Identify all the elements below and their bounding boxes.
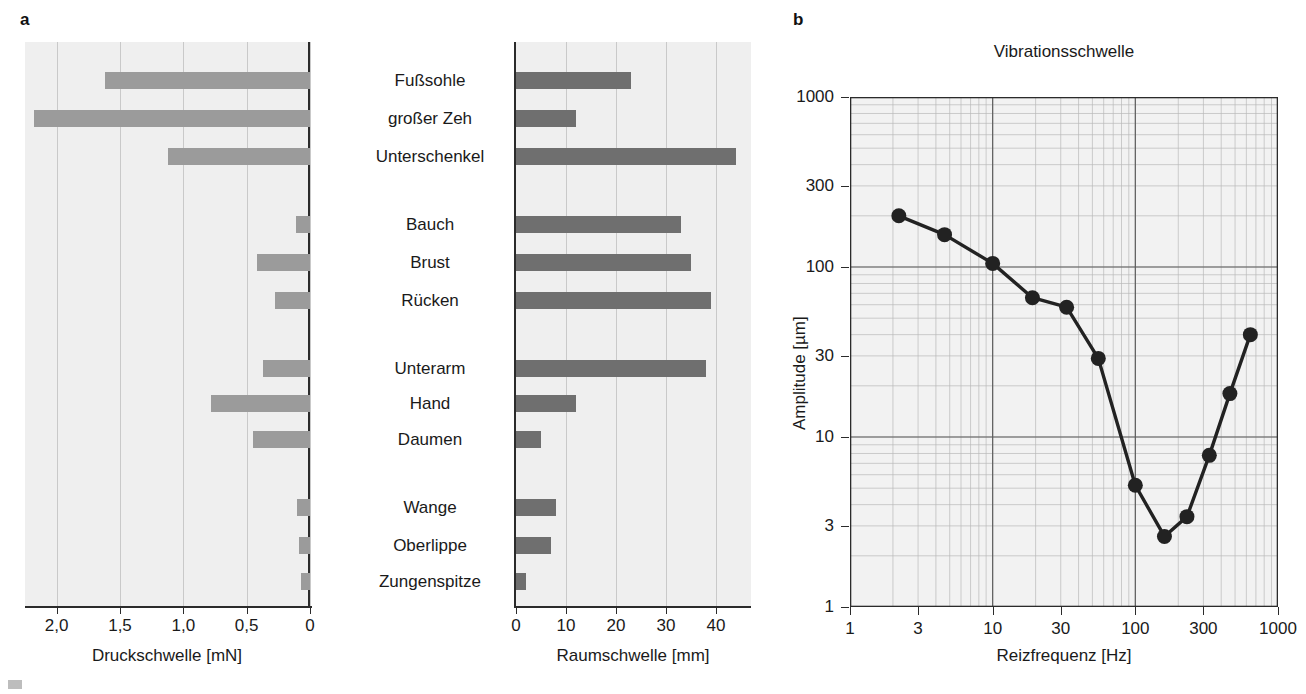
axis-tick-label: 30 bbox=[657, 616, 676, 636]
y-axis-tick bbox=[841, 526, 849, 527]
figure-root: a b 2,01,51,00,50 Druckschwelle [mN] Fuß… bbox=[0, 0, 1306, 694]
bar-row bbox=[25, 148, 310, 165]
x-axis-tick bbox=[993, 607, 994, 615]
x-axis-tick-label: 10 bbox=[983, 619, 1002, 639]
vibrationsschwelle-svg bbox=[850, 97, 1278, 607]
druckschwelle-bar bbox=[301, 573, 310, 590]
bar-row bbox=[516, 395, 751, 412]
bar-row bbox=[516, 431, 751, 448]
raumschwelle-bar bbox=[516, 431, 541, 448]
axis-tick-label: 0 bbox=[305, 616, 314, 636]
bar-row bbox=[25, 537, 310, 554]
bar-row bbox=[25, 216, 310, 233]
category-label: Brust bbox=[410, 253, 450, 273]
y-axis-tick bbox=[841, 437, 849, 438]
x-axis-tick-label: 100 bbox=[1121, 619, 1149, 639]
raumschwelle-bar bbox=[516, 537, 551, 554]
category-label: Bauch bbox=[406, 215, 454, 235]
x-axis-tick-label: 1 bbox=[845, 619, 854, 639]
panel-letter-a: a bbox=[20, 10, 29, 30]
x-axis-tick bbox=[850, 607, 851, 615]
axis-tick bbox=[57, 607, 58, 614]
y-axis-tick-label: 10 bbox=[772, 427, 834, 447]
bar-row bbox=[516, 537, 751, 554]
druckschwelle-bar bbox=[263, 360, 310, 377]
category-label: Rücken bbox=[401, 291, 459, 311]
category-label: großer Zeh bbox=[388, 109, 472, 129]
x-axis-tick bbox=[1135, 607, 1136, 615]
y-axis-tick-label: 3 bbox=[772, 516, 834, 536]
category-label: Unterarm bbox=[395, 359, 466, 379]
bar-row bbox=[25, 431, 310, 448]
category-label: Oberlippe bbox=[393, 536, 467, 556]
bar-row bbox=[516, 573, 751, 590]
bar-row bbox=[25, 292, 310, 309]
axis-tick bbox=[516, 607, 517, 614]
y-axis-tick bbox=[841, 97, 849, 98]
gridline bbox=[310, 42, 311, 606]
axis-tick bbox=[120, 607, 121, 614]
raumschwelle-bar bbox=[516, 395, 576, 412]
axis-tick-label: 1,0 bbox=[172, 616, 196, 636]
axis-tick-label: 20 bbox=[607, 616, 626, 636]
bar-row bbox=[516, 292, 751, 309]
bar-row bbox=[25, 72, 310, 89]
category-label: Zungenspitze bbox=[379, 572, 481, 592]
druckschwelle-bar bbox=[168, 148, 310, 165]
x-axis-tick-label: 30 bbox=[1051, 619, 1070, 639]
x-axis-tick-label: 300 bbox=[1189, 619, 1217, 639]
y-axis-tick-label: 100 bbox=[772, 257, 834, 277]
raumschwelle-bar bbox=[516, 72, 631, 89]
raumschwelle-bar bbox=[516, 573, 526, 590]
bar-row bbox=[25, 573, 310, 590]
vibrationsschwelle-plot-area bbox=[850, 97, 1278, 607]
y-axis-tick bbox=[841, 186, 849, 187]
category-label: Fußsohle bbox=[395, 71, 466, 91]
category-label: Hand bbox=[410, 394, 451, 414]
axis-tick-label: 40 bbox=[707, 616, 726, 636]
bar-row bbox=[516, 499, 751, 516]
y-axis-tick bbox=[841, 267, 849, 268]
druckschwelle-bar bbox=[253, 431, 310, 448]
y-axis-tick bbox=[841, 607, 849, 608]
bar-row bbox=[516, 72, 751, 89]
druckschwelle-bar bbox=[257, 254, 310, 271]
druckschwelle-bar bbox=[34, 110, 310, 127]
panel-letter-b: b bbox=[793, 10, 803, 30]
raumschwelle-bar bbox=[516, 254, 691, 271]
caption-marker bbox=[8, 680, 22, 689]
axis-tick-label: 0,5 bbox=[235, 616, 259, 636]
druckschwelle-bar bbox=[296, 216, 310, 233]
y-axis-tick-label: 300 bbox=[772, 176, 834, 196]
axis-tick-label: 0 bbox=[511, 616, 520, 636]
druckschwelle-bar bbox=[105, 72, 310, 89]
bar-row bbox=[516, 360, 751, 377]
axis-tick-label: 1,5 bbox=[108, 616, 132, 636]
bar-row bbox=[516, 148, 751, 165]
category-label: Unterschenkel bbox=[376, 147, 485, 167]
raumschwelle-bar bbox=[516, 499, 556, 516]
bar-row bbox=[25, 254, 310, 271]
druckschwelle-bar bbox=[211, 395, 310, 412]
axis-tick bbox=[616, 607, 617, 614]
y-axis-tick-label: 1 bbox=[772, 597, 834, 617]
bar-row bbox=[516, 216, 751, 233]
vibrationsschwelle-y-axis-title: Amplitude [µm] bbox=[790, 316, 810, 430]
raumschwelle-bar bbox=[516, 292, 711, 309]
bar-row bbox=[25, 395, 310, 412]
vibrationsschwelle-title: Vibrationsschwelle bbox=[994, 42, 1134, 62]
axis-tick bbox=[247, 607, 248, 614]
axis-tick bbox=[566, 607, 567, 614]
x-axis-tick bbox=[1278, 607, 1279, 615]
raumschwelle-bar bbox=[516, 216, 681, 233]
category-label: Daumen bbox=[398, 430, 462, 450]
axis-tick-label: 2,0 bbox=[45, 616, 69, 636]
bar-row bbox=[25, 110, 310, 127]
raumschwelle-bar bbox=[516, 110, 576, 127]
druckschwelle-axis-line bbox=[25, 606, 312, 608]
druckschwelle-bar bbox=[299, 537, 310, 554]
vibrationsschwelle-x-axis-title: Reizfrequenz [Hz] bbox=[996, 646, 1131, 666]
axis-tick bbox=[716, 607, 717, 614]
axis-tick bbox=[183, 607, 184, 614]
x-axis-tick bbox=[1061, 607, 1062, 615]
